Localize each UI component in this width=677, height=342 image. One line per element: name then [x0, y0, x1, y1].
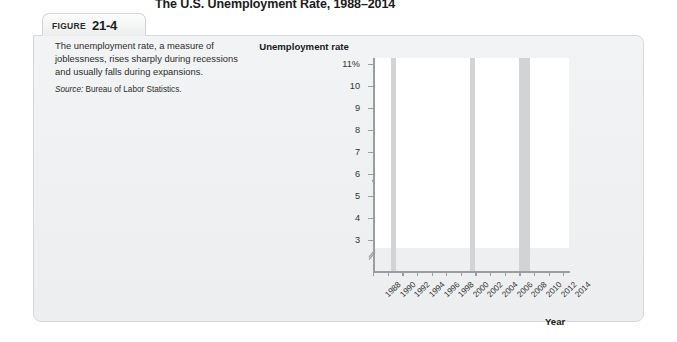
x-tick: [402, 271, 403, 276]
y-tick-label: 4: [355, 213, 360, 223]
x-axis-title: Year: [545, 316, 565, 327]
y-tick: 3: [368, 240, 373, 241]
y-tick-label: 11%: [342, 59, 360, 69]
x-tick: [519, 271, 520, 276]
recession-band: [470, 58, 475, 271]
caption-body: The unemployment rate, a measure of jobl…: [55, 39, 255, 79]
plot-area: 11%109876543 198819901992199419961998200…: [373, 58, 569, 248]
axis-break-icon: [367, 246, 381, 260]
x-tick: [475, 271, 476, 276]
y-tick-label: 6: [355, 169, 360, 179]
x-tick: [417, 271, 418, 276]
y-axis-title: Unemployment rate: [255, 41, 353, 53]
y-tick: 10: [368, 86, 373, 87]
x-tick: [446, 271, 447, 276]
x-tick-label: 2010: [544, 280, 563, 299]
y-tick-label: 3: [355, 235, 360, 245]
x-tick: [388, 271, 389, 276]
y-tick: 9: [368, 108, 373, 109]
x-tick: [505, 271, 506, 276]
figure-tab: FIGURE 21-4: [42, 13, 146, 36]
figure-card: FIGURE 21-4 The U.S. Unemployment Rate, …: [33, 13, 644, 322]
y-tick: 7: [368, 152, 373, 153]
y-tick-label: 10: [350, 81, 360, 91]
y-tick: 11%: [368, 64, 373, 65]
recession-band: [391, 58, 396, 271]
x-tick: [373, 271, 374, 276]
x-tick: [432, 271, 433, 276]
y-axis-line: [373, 58, 375, 271]
y-tick-label: 5: [355, 191, 360, 201]
x-tick: [490, 271, 491, 276]
caption-source: Source: Bureau of Labor Statistics.: [55, 84, 255, 95]
y-tick: 5: [368, 196, 373, 197]
y-tick: 4: [368, 218, 373, 219]
y-tick-label: 9: [355, 103, 360, 113]
x-tick: [461, 271, 462, 276]
x-tick-label: 2014: [573, 280, 592, 299]
x-tick: [563, 271, 564, 276]
figure-tab-word: FIGURE: [52, 21, 86, 31]
unemployment-chart: Unemployment rate 11%109876543 198819901…: [255, 35, 635, 297]
y-tick: 8: [368, 130, 373, 131]
figure-title: The U.S. Unemployment Rate, 1988–2014: [155, 0, 395, 11]
y-tick: 6: [368, 174, 373, 175]
recession-band: [519, 58, 531, 271]
y-tick-label: 8: [355, 125, 360, 135]
source-text: Bureau of Labor Statistics.: [86, 85, 182, 94]
figure-caption: The unemployment rate, a measure of jobl…: [55, 39, 255, 95]
figure-tab-number: 21-4: [92, 18, 117, 33]
x-tick: [534, 271, 535, 276]
y-tick-label: 7: [355, 147, 360, 157]
source-label: Source:: [55, 85, 83, 94]
x-tick: [549, 271, 550, 276]
x-tick-label: 1994: [427, 280, 446, 299]
